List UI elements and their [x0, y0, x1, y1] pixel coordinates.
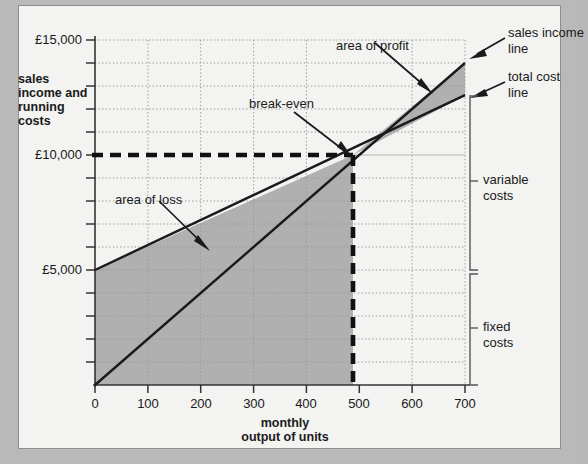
x-tick-label-300: 300 — [234, 396, 274, 411]
y-axis-title-line-2: income and — [18, 86, 90, 100]
fixed-costs-label-line-1: fixed — [483, 319, 573, 335]
x-tick-label-500: 500 — [339, 396, 379, 411]
y-axis-title-line-3: running — [18, 100, 90, 114]
y-axis-title-line-1: sales — [18, 72, 90, 86]
x-tick-label-100: 100 — [128, 396, 168, 411]
x-axis-title: monthly output of units — [195, 416, 375, 444]
sales-income-line-label-line-2: line — [508, 41, 588, 57]
y-axis-title-line-4: costs — [18, 114, 90, 128]
y-tick-label-15000: £15,000 — [12, 32, 82, 47]
fixed-costs-label: fixed costs — [483, 319, 573, 351]
break-even-arrow — [294, 112, 352, 157]
x-axis-title-line-2: output of units — [195, 430, 375, 444]
y-tick-label-10000: £10,000 — [12, 147, 82, 162]
total-cost-line-label-line-1: total cost — [508, 69, 588, 85]
variable-costs-label: variable costs — [483, 172, 573, 204]
break-even-label: break-even — [249, 96, 314, 111]
fixed-costs-bracket — [470, 274, 478, 385]
y-tick-label-5000: £5,000 — [12, 262, 82, 277]
fixed-costs-label-line-2: costs — [483, 335, 573, 351]
x-tick-label-200: 200 — [181, 396, 221, 411]
variable-costs-label-line-2: costs — [483, 188, 573, 204]
variable-costs-bracket — [470, 96, 478, 270]
sales-income-line-arrow — [469, 38, 505, 59]
area-of-loss-label: area of loss — [115, 192, 182, 207]
total-cost-line-label: total cost line — [508, 69, 588, 101]
x-tick-label-700: 700 — [445, 396, 485, 411]
area-of-profit-label: area of profit — [336, 38, 409, 53]
x-axis-title-line-1: monthly — [195, 416, 375, 430]
x-tick-label-600: 600 — [392, 396, 432, 411]
x-tick-label-0: 0 — [75, 396, 115, 411]
y-axis-title: sales income and running costs — [18, 72, 90, 128]
x-axis-ticks — [95, 385, 465, 393]
x-tick-label-400: 400 — [286, 396, 326, 411]
total-cost-line-label-line-2: line — [508, 85, 588, 101]
sales-income-line-label-line-1: sales income — [508, 25, 588, 41]
variable-costs-label-line-1: variable — [483, 172, 573, 188]
sales-income-line-label: sales income line — [508, 25, 588, 57]
